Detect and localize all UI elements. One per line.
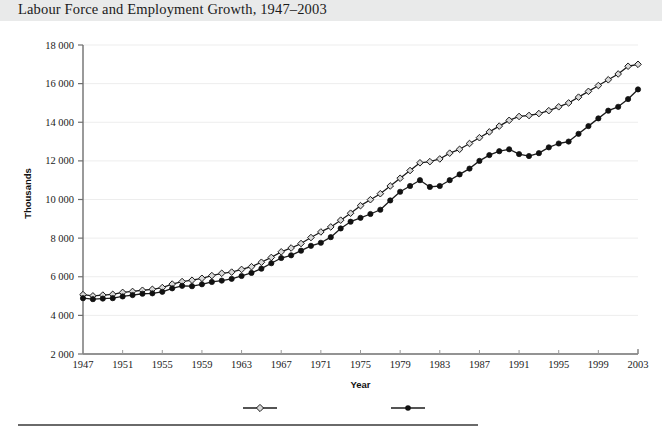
- figure-container: Labour Force and Employment Growth, 1947…: [0, 0, 662, 437]
- data-point-labour-force: [516, 113, 523, 120]
- data-point-labour-force: [565, 100, 572, 107]
- data-point-employment: [130, 292, 135, 297]
- data-point-labour-force: [308, 234, 315, 241]
- data-point-employment: [298, 248, 303, 253]
- y-axis-tick-label: 14 000: [45, 117, 74, 128]
- series-line-2: [83, 89, 638, 299]
- x-axis-tick-label: 1979: [390, 359, 411, 370]
- x-axis-tick-label: 1999: [588, 359, 609, 370]
- x-axis-tick-label: 1995: [548, 359, 569, 370]
- data-point-employment: [388, 198, 393, 203]
- data-point-labour-force: [486, 129, 493, 136]
- series-line-1: [83, 64, 638, 296]
- data-point-employment: [229, 276, 234, 281]
- y-axis-tick-label: 16 000: [45, 78, 74, 89]
- data-point-employment: [635, 87, 640, 92]
- line-chart: 2 0004 0006 0008 00010 00012 00014 00016…: [0, 0, 662, 420]
- data-point-employment: [526, 153, 531, 158]
- data-point-labour-force: [526, 112, 533, 119]
- data-point-labour-force: [228, 269, 235, 276]
- x-axis-tick-label: 1987: [469, 359, 490, 370]
- data-point-labour-force: [318, 229, 325, 236]
- y-axis-tick-label: 4 000: [50, 310, 74, 321]
- data-point-labour-force: [536, 110, 543, 117]
- data-point-labour-force: [635, 61, 642, 68]
- data-point-employment: [219, 278, 224, 283]
- data-point-employment: [378, 207, 383, 212]
- data-point-employment: [417, 178, 422, 183]
- data-point-labour-force: [189, 277, 196, 284]
- data-point-employment: [279, 255, 284, 260]
- data-point-employment: [249, 270, 254, 275]
- data-point-employment: [358, 215, 363, 220]
- data-point-employment: [576, 131, 581, 136]
- data-point-labour-force: [248, 263, 255, 270]
- x-axis-tick-label: 1963: [231, 359, 252, 370]
- data-point-labour-force: [476, 134, 483, 141]
- data-point-labour-force: [278, 249, 285, 256]
- y-axis-tick-label: 8 000: [50, 233, 74, 244]
- x-axis-tick-label: 1971: [310, 359, 331, 370]
- x-axis-tick-label: 1967: [271, 359, 292, 370]
- data-point-labour-force: [555, 104, 562, 111]
- data-point-employment: [407, 183, 412, 188]
- data-point-labour-force: [575, 94, 582, 101]
- data-point-employment: [318, 240, 323, 245]
- x-axis-title: Year: [350, 379, 370, 390]
- data-point-employment: [437, 183, 442, 188]
- data-point-employment: [606, 108, 611, 113]
- x-axis-tick-label: 1975: [350, 359, 371, 370]
- data-point-labour-force: [546, 107, 553, 114]
- data-point-employment: [80, 296, 85, 301]
- y-axis-tick-label: 12 000: [45, 155, 74, 166]
- data-point-employment: [328, 235, 333, 240]
- data-point-labour-force: [238, 266, 245, 273]
- data-point-employment: [338, 226, 343, 231]
- data-point-employment: [566, 139, 571, 144]
- legend-marker-labour-force: [256, 404, 263, 411]
- data-point-employment: [507, 147, 512, 152]
- data-point-employment: [546, 145, 551, 150]
- data-point-labour-force: [209, 272, 216, 279]
- y-axis-tick-label: 18 000: [45, 40, 74, 51]
- data-point-labour-force: [427, 158, 434, 165]
- data-point-employment: [616, 104, 621, 109]
- data-point-employment: [487, 152, 492, 157]
- data-point-employment: [398, 189, 403, 194]
- data-point-employment: [467, 166, 472, 171]
- data-point-employment: [477, 158, 482, 163]
- data-point-employment: [447, 178, 452, 183]
- data-point-employment: [556, 141, 561, 146]
- data-point-labour-force: [466, 140, 473, 147]
- data-point-employment: [586, 124, 591, 129]
- data-point-employment: [368, 211, 373, 216]
- y-axis-title: Thousands: [22, 168, 33, 219]
- data-point-labour-force: [268, 254, 275, 261]
- data-point-employment: [189, 284, 194, 289]
- data-point-employment: [269, 261, 274, 266]
- y-axis-tick-label: 6 000: [50, 271, 74, 282]
- x-axis-tick-label: 1955: [152, 359, 173, 370]
- data-point-employment: [180, 283, 185, 288]
- y-axis-tick-label: 2 000: [50, 349, 74, 360]
- x-axis-tick-label: 2003: [628, 359, 649, 370]
- data-point-employment: [625, 96, 630, 101]
- data-point-employment: [289, 253, 294, 258]
- data-point-employment: [516, 152, 521, 157]
- data-point-employment: [536, 151, 541, 156]
- data-point-employment: [596, 116, 601, 121]
- x-axis-tick-label: 1951: [112, 359, 133, 370]
- data-point-employment: [209, 279, 214, 284]
- data-point-labour-force: [456, 146, 463, 153]
- data-point-employment: [160, 289, 165, 294]
- data-point-labour-force: [496, 123, 503, 130]
- data-point-employment: [259, 266, 264, 271]
- x-axis-tick-label: 1959: [191, 359, 212, 370]
- data-point-employment: [199, 282, 204, 287]
- data-point-employment: [150, 291, 155, 296]
- legend-marker-employment: [405, 405, 411, 411]
- x-axis-tick-label: 1991: [509, 359, 530, 370]
- data-point-labour-force: [585, 88, 592, 95]
- data-point-labour-force: [367, 196, 374, 203]
- x-axis-tick-label: 1947: [73, 359, 94, 370]
